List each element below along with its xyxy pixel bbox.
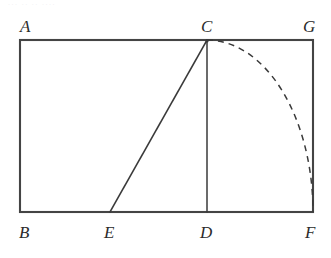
- vertex-label-a: A: [20, 18, 30, 35]
- vertex-label-d: D: [200, 224, 212, 241]
- geometry-figure: [0, 0, 331, 258]
- vertex-label-f: F: [305, 224, 315, 241]
- rectangle-ABFG: [20, 40, 313, 212]
- segment-ce: [110, 40, 207, 212]
- dashed-arc-cf: [207, 40, 313, 212]
- vertex-label-e: E: [104, 224, 114, 241]
- vertex-label-c: C: [201, 18, 212, 35]
- diagram-page: ··· ·· ·· ···· A C G B E D F: [0, 0, 331, 258]
- vertex-label-b: B: [19, 224, 29, 241]
- vertex-label-g: G: [303, 18, 315, 35]
- vertex-marker-c: [205, 39, 208, 42]
